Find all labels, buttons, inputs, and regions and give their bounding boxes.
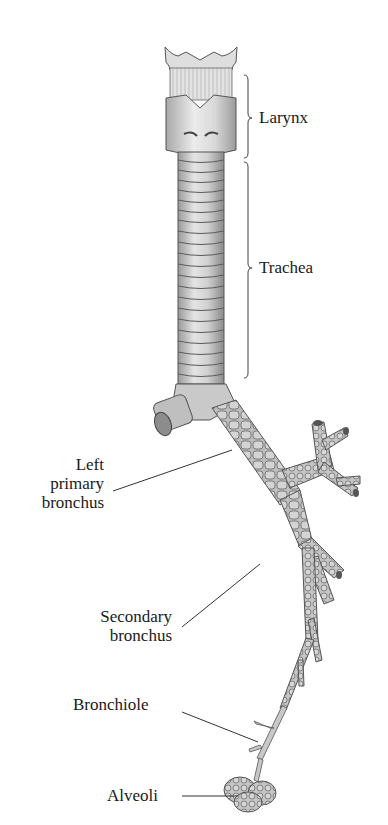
- secondary-bronchus-illustration: [280, 490, 344, 710]
- label-line: bronchus: [20, 493, 104, 512]
- label-alveoli: Alveoli: [107, 786, 158, 805]
- secondary-bronchus-leader: [182, 564, 260, 627]
- label-secondary-bronchus: Secondary bronchus: [70, 607, 172, 645]
- upper-branches-illustration: [282, 420, 360, 497]
- label-line: Secondary: [70, 607, 172, 626]
- larynx-illustration: [165, 47, 237, 155]
- label-left-primary-bronchus: Left primary bronchus: [20, 455, 104, 512]
- label-bronchiole: Bronchiole: [73, 695, 149, 714]
- alveoli-illustration: [224, 777, 276, 812]
- label-line: primary: [20, 474, 104, 493]
- label-trachea: Trachea: [259, 258, 313, 277]
- trachea-bracket: [244, 162, 252, 378]
- left-primary-bronchus-leader: [113, 450, 232, 491]
- label-line: Left: [20, 455, 104, 474]
- label-line: bronchus: [70, 626, 172, 645]
- anatomy-illustration: [0, 0, 388, 825]
- label-larynx: Larynx: [259, 108, 308, 127]
- anatomy-diagram: Larynx Trachea Left primary bronchus Sec…: [0, 0, 388, 825]
- larynx-bracket: [244, 75, 252, 158]
- trachea-illustration: [178, 152, 224, 384]
- bronchiole-leader: [182, 712, 258, 742]
- bronchiole-illustration: [249, 706, 287, 782]
